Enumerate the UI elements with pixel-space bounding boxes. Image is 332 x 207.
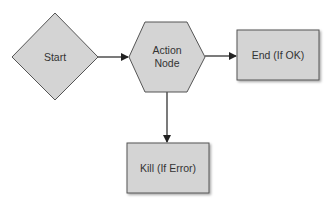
node-end: End (If OK) <box>237 30 319 80</box>
end-label: End (If OK) <box>252 49 305 61</box>
action-label-line1: Action <box>152 44 181 56</box>
start-label: Start <box>44 51 66 63</box>
action-label-line2: Node <box>154 57 179 69</box>
node-start: Start <box>12 13 98 100</box>
flowchart: Start Action Node End (If OK) Kill (If E… <box>0 0 332 207</box>
node-action: Action Node <box>129 22 205 92</box>
kill-label: Kill (If Error) <box>140 162 196 174</box>
node-kill: Kill (If Error) <box>127 143 209 193</box>
